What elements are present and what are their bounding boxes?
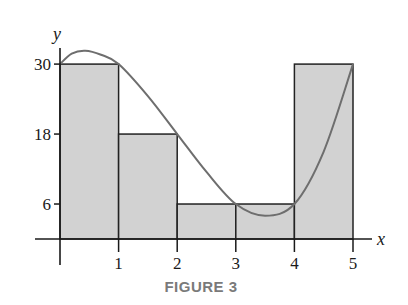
rectangles-group [60,64,353,239]
y-axis-label: y [51,24,61,44]
riemann-sum-chart: 12345 61830 x y [0,0,408,305]
x-axis-label: x [376,229,385,249]
y-tick-label: 6 [43,195,52,214]
rectangle-3 [177,204,236,239]
x-tick-label: 1 [114,254,123,273]
figure-caption-text: FIGURE 3 [164,278,237,295]
y-tick-label: 30 [34,55,51,74]
x-tick-label: 2 [173,254,182,273]
x-ticks-group: 12345 [114,239,357,273]
x-tick-label: 5 [349,254,358,273]
y-tick-label: 18 [34,125,51,144]
x-tick-label: 4 [290,254,299,273]
y-ticks-group: 61830 [34,55,60,214]
rectangle-1 [60,64,119,239]
x-tick-label: 3 [232,254,241,273]
figure-caption: FIGURE 3 [0,278,408,295]
rectangle-2 [119,134,178,239]
